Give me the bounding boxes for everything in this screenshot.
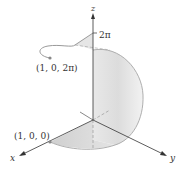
helicoid-diagram: [0, 0, 183, 180]
end-point-label: (1, 0, 2π): [36, 64, 78, 73]
z-axis-arrow-icon: [91, 13, 95, 19]
surface-region: [93, 49, 143, 145]
start-point-label: (1, 0, 0): [14, 132, 50, 141]
y-axis-arrow-icon: [160, 151, 167, 156]
y-axis-label: y: [170, 154, 175, 163]
negative-y-axis: [80, 112, 93, 120]
z-axis-label: z: [91, 5, 95, 13]
x-axis-arrow-icon: [19, 151, 26, 156]
z-tick-label: 2π: [99, 31, 111, 40]
x-axis-label: x: [10, 154, 15, 163]
point-end-marker: [48, 56, 51, 59]
